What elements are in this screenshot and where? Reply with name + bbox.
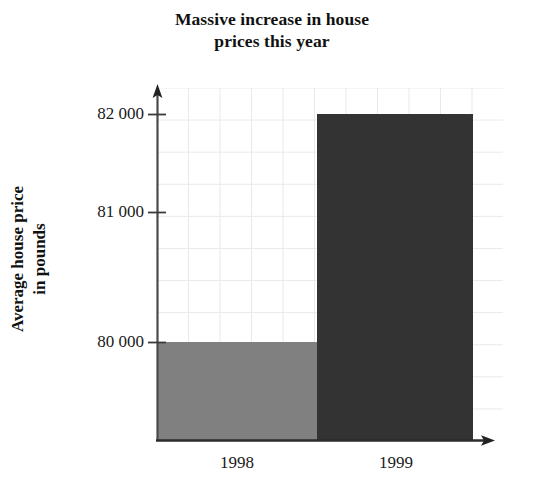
bar-chart: Massive increase in house prices this ye… bbox=[0, 0, 534, 498]
x-tick-label-1998: 1998 bbox=[177, 453, 297, 473]
bar-1999 bbox=[317, 114, 473, 440]
x-tick-label-1999: 1999 bbox=[336, 453, 456, 473]
y-tick-label-82000: 82 000 bbox=[46, 104, 144, 124]
y-tick-label-80000: 80 000 bbox=[46, 332, 144, 352]
y-tick-label-81000: 81 000 bbox=[46, 202, 144, 222]
bar-1998 bbox=[157, 342, 317, 440]
y-tick-82000: 82 000 bbox=[46, 104, 144, 124]
y-tick-80000: 80 000 bbox=[46, 332, 144, 352]
y-axis-title: Average house price in pounds bbox=[7, 133, 53, 385]
chart-title: Massive increase in house prices this ye… bbox=[137, 8, 407, 52]
y-tick-81000: 81 000 bbox=[46, 202, 144, 222]
